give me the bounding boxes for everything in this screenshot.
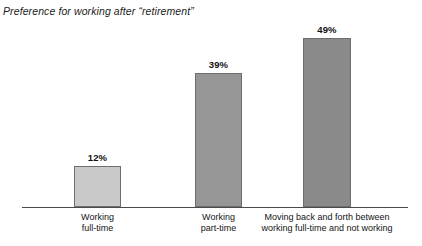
bar-rect	[195, 73, 242, 207]
bar-value-label: 12%	[88, 152, 107, 163]
bar-value-label: 39%	[209, 59, 228, 70]
bar-category-label-line-1: Working	[201, 212, 237, 223]
bar-value-label: 49%	[317, 24, 336, 35]
plot-area: 12% Working full-time 39% Working part-t…	[0, 0, 422, 246]
bar-category-label: Working part-time	[201, 212, 237, 234]
bar-category-label-line-1: Working	[81, 212, 114, 223]
bar-category-label-line-2: working full-time and not working	[261, 223, 392, 234]
bar-category-label-line-2: full-time	[81, 223, 114, 234]
bar-category-label-line-1: Moving back and forth between	[261, 212, 392, 223]
x-axis-baseline	[22, 207, 408, 208]
bar-rect	[303, 38, 351, 207]
bar-working-full-time: 12% Working full-time	[74, 166, 121, 207]
bar-category-label: Working full-time	[81, 212, 114, 234]
bar-working-part-time: 39% Working part-time	[195, 73, 242, 207]
bar-chart: Preference for working after “retirement…	[0, 0, 422, 246]
bar-moving-back-and-forth: 49% Moving back and forth between workin…	[303, 38, 351, 207]
bar-category-label: Moving back and forth between working fu…	[261, 212, 392, 234]
bar-rect	[74, 166, 121, 207]
bar-category-label-line-2: part-time	[201, 223, 237, 234]
